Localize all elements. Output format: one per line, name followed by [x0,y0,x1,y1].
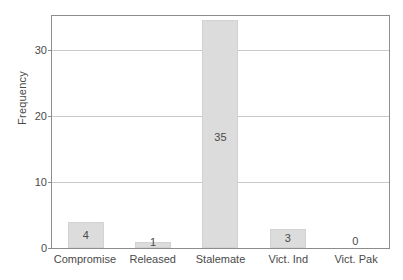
bar-compromise[interactable]: 4 [68,222,104,248]
y-tick-label-0: 0 [41,242,47,254]
bar-released[interactable]: 1 [135,242,171,248]
bar-value-compromise: 4 [83,229,89,241]
y-tick-label-30: 30 [35,44,47,56]
x-label-vict-ind: Vict. Ind [269,253,309,265]
y-tick-label-10: 10 [35,176,47,188]
x-label-stalemate: Stalemate [196,253,246,265]
y-tick-label-20: 20 [35,110,47,122]
bar-slot-compromise: 4 [52,16,119,248]
x-label-vict-pak: Vict. Pak [334,253,377,265]
bar-value-stalemate: 35 [214,131,226,143]
bar-value-vict-pak: 0 [352,235,358,247]
bar-slot-released: 1 [119,16,186,248]
bars-layer: 4 1 35 3 0 [52,16,389,248]
bar-vict-ind[interactable]: 3 [270,229,306,248]
x-label-compromise: Compromise [54,253,116,265]
y-tickmark-0 [48,248,52,249]
bar-slot-vict-ind: 3 [254,16,321,248]
bar-value-released: 1 [150,236,156,248]
bar-chart: Frequency 30 20 10 0 4 [0,0,403,280]
y-axis-title: Frequency [16,38,28,158]
x-axis-labels: Compromise Released Stalemate Vict. Ind … [51,253,390,273]
bar-stalemate[interactable]: 35 [202,20,238,248]
bar-value-vict-ind: 3 [285,232,291,244]
bar-slot-vict-pak: 0 [322,16,389,248]
bar-slot-stalemate: 35 [187,16,254,248]
plot-area: 30 20 10 0 4 1 [51,15,390,249]
x-label-released: Released [129,253,175,265]
